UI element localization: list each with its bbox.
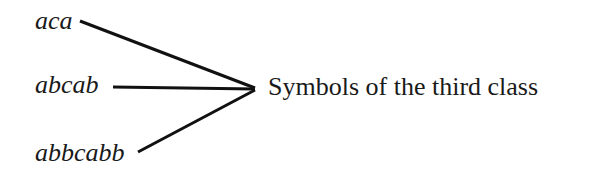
edge-abcab (113, 87, 255, 89)
target-label: Symbols of the third class (268, 74, 538, 100)
edge-aca (80, 21, 255, 88)
term-abcab: abcab (35, 72, 99, 98)
term-aca: aca (35, 8, 73, 34)
term-abbcabb: abbcabb (35, 140, 125, 166)
edge-abbcabb (138, 90, 255, 152)
